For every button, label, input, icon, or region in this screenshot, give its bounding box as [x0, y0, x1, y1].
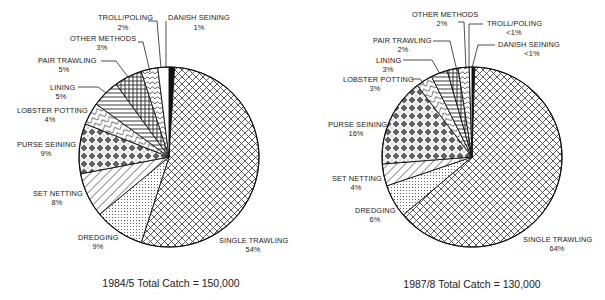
label-name: LINING — [50, 83, 75, 92]
label-pct: <1% — [524, 49, 540, 58]
label-pct: 2% — [437, 19, 448, 28]
label-pct: 9% — [93, 242, 104, 251]
label-pct: 6% — [370, 215, 381, 224]
label-name: DANISH SEINING — [498, 40, 560, 49]
label-pct: 64% — [549, 244, 564, 253]
label-pct: 1% — [194, 23, 205, 32]
label-pair-trawling: PAIR TRAWLING 5% — [38, 56, 128, 77]
label-name: PAIR TRAWLING — [38, 56, 97, 65]
label-name: TROLL/POLING — [98, 13, 153, 22]
label-name: SET NETTING — [332, 174, 382, 183]
label-name: DREDGING — [78, 233, 119, 242]
label-name: SINGLE TRAWLING — [219, 236, 288, 245]
label-pct: 3% — [97, 43, 108, 52]
label-name: SINGLE TRAWLING — [523, 235, 592, 244]
caption-1987: 1987/8 Total Catch = 130,000 — [403, 278, 540, 290]
label-name: OTHER METHODS — [70, 34, 136, 43]
label-pct: 4% — [351, 183, 362, 192]
label-pct: 8% — [52, 198, 63, 207]
label-set-netting: SET NETTING 8% — [33, 189, 83, 207]
label-other-methods: OTHER METHODS 3% — [70, 34, 150, 72]
pie-chart-1987 — [382, 67, 562, 247]
label-lining: LINING 5% — [50, 83, 106, 101]
label-pct: <1% — [506, 28, 522, 37]
label-pct: 4% — [45, 115, 56, 124]
label-pct: 5% — [59, 65, 70, 74]
label-name: LOBSTER POTTING — [343, 75, 414, 84]
label-pct: 2% — [118, 23, 129, 32]
label-danish-seining: DANISH SEINING <1% — [472, 40, 560, 68]
label-pct: 9% — [41, 149, 52, 158]
label-pct: 54% — [245, 245, 260, 254]
label-purse-seining: PURSE SEINING 9% — [17, 140, 76, 158]
label-name: TROLL/POLING — [487, 19, 542, 28]
label-pct: 3% — [383, 65, 394, 74]
label-name: LINING — [376, 56, 401, 65]
caption-1984: 1984/5 Total Catch = 150,000 — [102, 277, 239, 289]
label-name: OTHER METHODS — [412, 10, 478, 19]
label-danish-seining: DANISH SEINING 1% — [166, 13, 230, 68]
label-name: LOBSTER POTTING — [17, 106, 88, 115]
label-pct: 2% — [398, 45, 409, 54]
label-purse-seining: PURSE SEINING 16% — [328, 120, 387, 138]
label-lobster-potting: LOBSTER POTTING 4% — [17, 106, 88, 124]
label-pct: 16% — [348, 129, 363, 138]
chart-canvas: TROLL/POLING 2% DANISH SEINING 1% OTHER … — [0, 0, 605, 300]
label-lining: LINING 3% — [376, 56, 440, 74]
label-name: PURSE SEINING — [17, 140, 76, 149]
label-name: PAIR TRAWLING — [373, 36, 432, 45]
label-single-trawling: SINGLE TRAWLING 64% — [523, 235, 592, 253]
label-pct: 3% — [370, 84, 381, 93]
label-dredging: DREDGING 9% — [78, 233, 119, 251]
label-name: DREDGING — [355, 206, 396, 215]
label-name: PURSE SEINING — [328, 120, 387, 129]
label-name: DANISH SEINING — [168, 13, 230, 22]
label-single-trawling: SINGLE TRAWLING 54% — [219, 236, 288, 254]
label-dredging: DREDGING 6% — [355, 206, 396, 224]
label-name: SET NETTING — [33, 189, 83, 198]
label-pct: 5% — [56, 92, 67, 101]
label-set-netting: SET NETTING 4% — [332, 174, 382, 192]
pie-chart-1984 — [79, 67, 259, 247]
